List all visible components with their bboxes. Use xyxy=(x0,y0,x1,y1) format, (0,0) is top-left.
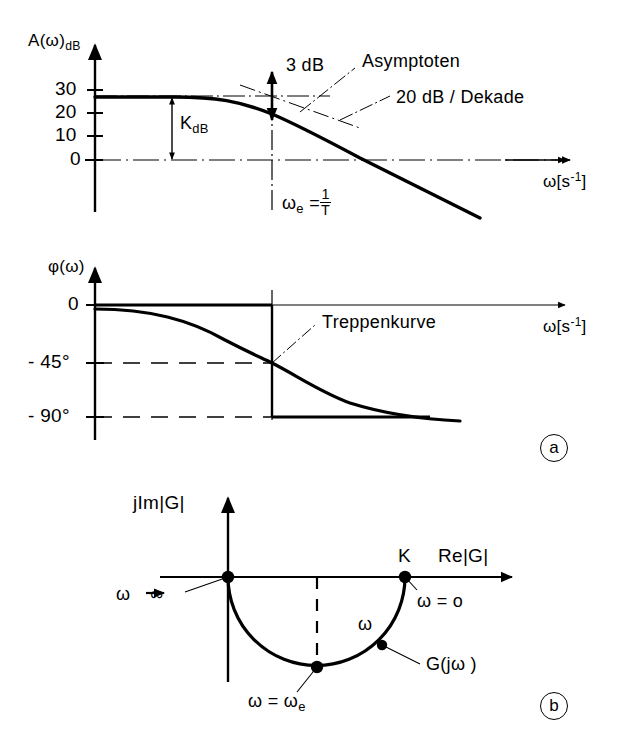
transfer-function-label: G(jω ) xyxy=(426,655,477,673)
treppenkurve-leader-line xyxy=(272,325,315,363)
amplitude-ytick-0: 0 xyxy=(70,149,81,168)
figure-canvas xyxy=(0,0,634,747)
panel-marker-a: a xyxy=(540,434,568,462)
k-db-label: KdB xyxy=(180,114,209,136)
amplitude-ytick-10: 10 xyxy=(55,125,77,144)
asymptoten-label: Asymptoten xyxy=(362,52,460,70)
phase-ytick-minus90: - 90° xyxy=(28,406,70,425)
nyquist-x-axis-label: Re|G| xyxy=(438,546,488,565)
panel-marker-b: b xyxy=(540,692,568,720)
phase-x-axis-label: ω[s-1] xyxy=(543,317,587,335)
phase-ytick-0: 0 xyxy=(68,294,79,313)
omega-marker-label: ω xyxy=(358,615,372,633)
amplitude-x-axis-label: ω[s-1] xyxy=(543,172,587,190)
treppenkurve-label: Treppenkurve xyxy=(322,313,436,331)
corner-frequency-label: ωe =1T xyxy=(282,187,331,217)
slope-label: 20 dB / Dekade xyxy=(396,88,524,106)
amplitude-ytick-30: 30 xyxy=(55,79,77,98)
omega-infinity-leader-line xyxy=(185,577,228,592)
phase-plot-group xyxy=(86,268,565,440)
transfer-function-leader-line xyxy=(382,645,420,664)
phase-ytick-minus45: - 45° xyxy=(28,352,70,371)
amplitude-y-axis-label: A(ω)dB xyxy=(28,32,81,52)
figure-root: A(ω)dB 30 20 10 0 KdB 3 dB Asymptoten 20… xyxy=(0,0,634,747)
phase-y-axis-label: φ(ω) xyxy=(48,258,85,275)
amplitude-slope-asymptote xyxy=(240,85,360,128)
omega-e-leader-line xyxy=(297,667,317,692)
omega-e-label: ω = ωe xyxy=(248,692,306,714)
omega-zero-leader-line xyxy=(405,577,417,590)
three-db-label: 3 dB xyxy=(286,56,324,74)
nyquist-k-label: K xyxy=(398,546,411,565)
omega-infinity-label: ω∞ xyxy=(116,585,164,603)
nyquist-y-axis-label: jIm|G| xyxy=(133,493,185,512)
slope-leader-line xyxy=(340,96,390,120)
omega-zero-label: ω = o xyxy=(417,592,463,610)
amplitude-ytick-20: 20 xyxy=(55,102,77,121)
